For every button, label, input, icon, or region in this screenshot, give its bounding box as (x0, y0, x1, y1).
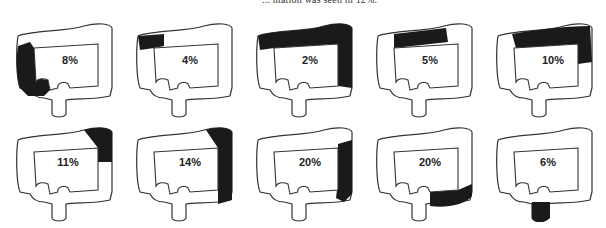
colon-diagram: 11% (14, 122, 124, 217)
colon-diagram: 4% (134, 18, 244, 113)
percent-label: 20% (290, 156, 330, 168)
colon-outline-icon (494, 18, 600, 118)
colon-outline-icon (14, 122, 120, 222)
colon-outline-icon (494, 122, 600, 222)
colon-diagram: 2% (254, 18, 364, 113)
colon-diagram: 14% (134, 122, 244, 217)
colon-diagram: 20% (254, 122, 364, 217)
colon-diagram: 8% (14, 18, 124, 113)
colon-outline-icon (374, 18, 480, 118)
percent-label: 8% (50, 54, 90, 66)
colon-outline-icon (134, 122, 240, 222)
colon-diagram: 10% (494, 18, 604, 113)
percent-label: 14% (170, 156, 210, 168)
colon-outline-icon (254, 122, 360, 222)
percent-label: 10% (533, 54, 573, 66)
percent-label: 6% (528, 156, 568, 168)
percent-label: 20% (410, 156, 450, 168)
colon-outline-icon (14, 18, 120, 118)
colon-outline-icon (374, 122, 480, 222)
colon-diagram: 20% (374, 122, 484, 217)
percent-label: 11% (48, 156, 88, 168)
colon-diagram: 6% (494, 122, 604, 217)
caption-fragment: ... ntation was seen in 12%. (262, 0, 377, 5)
percent-label: 2% (290, 54, 330, 66)
colon-outline-icon (254, 18, 360, 118)
percent-label: 5% (410, 54, 450, 66)
colon-outline-icon (134, 18, 240, 118)
percent-label: 4% (170, 54, 210, 66)
colon-diagram: 5% (374, 18, 484, 113)
